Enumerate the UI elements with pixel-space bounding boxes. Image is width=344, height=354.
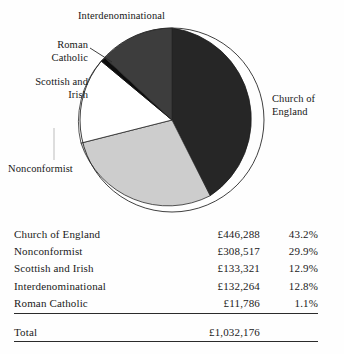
table-row: Interdenominational £132,264 12.8% [14, 277, 318, 294]
row-percent: 1.1% [260, 295, 318, 312]
pie-label-roman-catholic: Roman Catholic [16, 39, 88, 64]
total-amount: £1,032,176 [164, 312, 260, 342]
row-amount: £11,786 [164, 295, 260, 312]
row-label: Church of England [14, 225, 164, 242]
row-amount: £446,288 [164, 225, 260, 242]
table-total-row: Total £1,032,176 [14, 312, 318, 342]
row-amount: £132,264 [164, 277, 260, 294]
row-label: Interdenominational [14, 277, 164, 294]
table-row: Church of England £446,288 43.2% [14, 225, 318, 242]
row-percent: 12.9% [260, 260, 318, 277]
pie-label-church-of-england: Church of England [272, 93, 315, 118]
pie-chart-figure: Interdenominational Roman Catholic Scott… [0, 0, 344, 354]
total-label: Total [14, 312, 164, 342]
row-percent: 29.9% [260, 242, 318, 259]
row-label: Scottish and Irish [14, 260, 164, 277]
row-label: Nonconformist [14, 242, 164, 259]
row-percent: 12.8% [260, 277, 318, 294]
table-row: Nonconformist £308,517 29.9% [14, 242, 318, 259]
row-amount: £308,517 [164, 242, 260, 259]
row-amount: £133,321 [164, 260, 260, 277]
total-percent [260, 312, 318, 342]
table-rule-bottom [14, 341, 318, 342]
row-percent: 43.2% [260, 225, 318, 242]
data-table-body: Church of England £446,288 43.2% Nonconf… [14, 225, 318, 342]
pie-label-scottish-and-irish: Scottish and Irish [6, 76, 88, 101]
row-label: Roman Catholic [14, 295, 164, 312]
data-table: Church of England £446,288 43.2% Nonconf… [14, 225, 318, 342]
table-rule-above-total [14, 313, 318, 314]
data-table-area: Church of England £446,288 43.2% Nonconf… [0, 225, 344, 354]
pie-label-interdenominational: Interdenominational [78, 10, 165, 23]
pie-chart-area: Interdenominational Roman Catholic Scott… [0, 0, 344, 222]
pie-label-nonconformist: Nonconformist [8, 163, 73, 176]
table-row: Roman Catholic £11,786 1.1% [14, 295, 318, 312]
table-row: Scottish and Irish £133,321 12.9% [14, 260, 318, 277]
